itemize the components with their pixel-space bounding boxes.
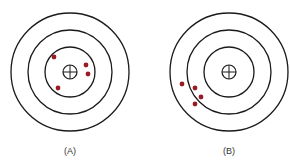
target-label-a: (A) — [64, 146, 76, 156]
shot-dot — [180, 82, 185, 87]
shot-dot — [56, 86, 61, 91]
crosshair-icon — [63, 65, 77, 79]
shot-dot — [199, 95, 204, 100]
target-label-b: (B) — [223, 146, 235, 156]
shot-dot — [86, 72, 91, 77]
shot-dot — [52, 55, 57, 60]
targets-diagram — [0, 0, 290, 161]
crosshair-icon — [222, 65, 236, 79]
target-a — [11, 13, 129, 131]
target-b — [170, 13, 288, 131]
shot-dot — [193, 102, 198, 107]
shot-dot — [84, 63, 89, 68]
shot-dot — [193, 86, 198, 91]
